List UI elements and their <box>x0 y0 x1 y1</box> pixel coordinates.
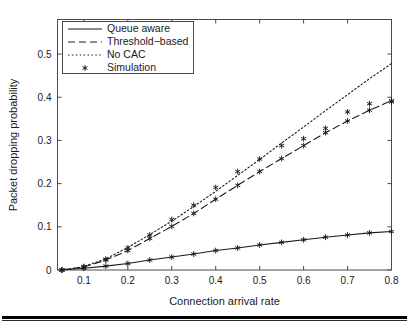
x-tick-label: 0.8 <box>385 275 399 286</box>
page-bottom-rule <box>2 316 407 319</box>
x-tick-label: 0.1 <box>77 275 91 286</box>
y-tick-label: 0.2 <box>38 178 52 189</box>
y-axis-label: Packet dropping probability <box>7 78 19 211</box>
y-tick-label: 0.1 <box>38 221 52 232</box>
y-tick-label: 0 <box>46 265 52 276</box>
y-tick-label: 0.3 <box>38 135 52 146</box>
x-tick-label: 0.4 <box>209 275 223 286</box>
legend-label: Simulation <box>107 61 156 73</box>
x-axis-label: Connection arrival rate <box>169 295 280 307</box>
chart-svg: 0.10.20.30.40.50.60.70.8 00.10.20.30.40.… <box>0 0 409 329</box>
y-tick-label: 0.4 <box>38 92 52 103</box>
legend-label: Threshold−based <box>107 35 189 47</box>
x-tick-label: 0.6 <box>297 275 311 286</box>
x-tick-label: 0.2 <box>121 275 135 286</box>
y-tick-label: 0.5 <box>38 49 52 60</box>
x-tick-label: 0.3 <box>165 275 179 286</box>
legend-label: Queue aware <box>107 22 170 34</box>
legend: Queue awareThreshold−basedNo CACSimulati… <box>63 22 194 74</box>
x-tick-label: 0.5 <box>253 275 267 286</box>
x-tick-label: 0.7 <box>341 275 355 286</box>
page-bottom-rule-thin <box>2 320 407 321</box>
chart-figure: 0.10.20.30.40.50.60.70.8 00.10.20.30.40.… <box>0 0 409 329</box>
legend-label: No CAC <box>107 48 146 60</box>
